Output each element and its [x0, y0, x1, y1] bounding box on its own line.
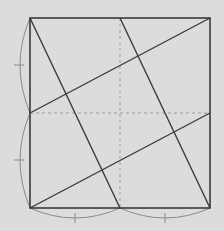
dashed-midlines: [30, 18, 210, 208]
geometry-diagram: [0, 0, 224, 231]
